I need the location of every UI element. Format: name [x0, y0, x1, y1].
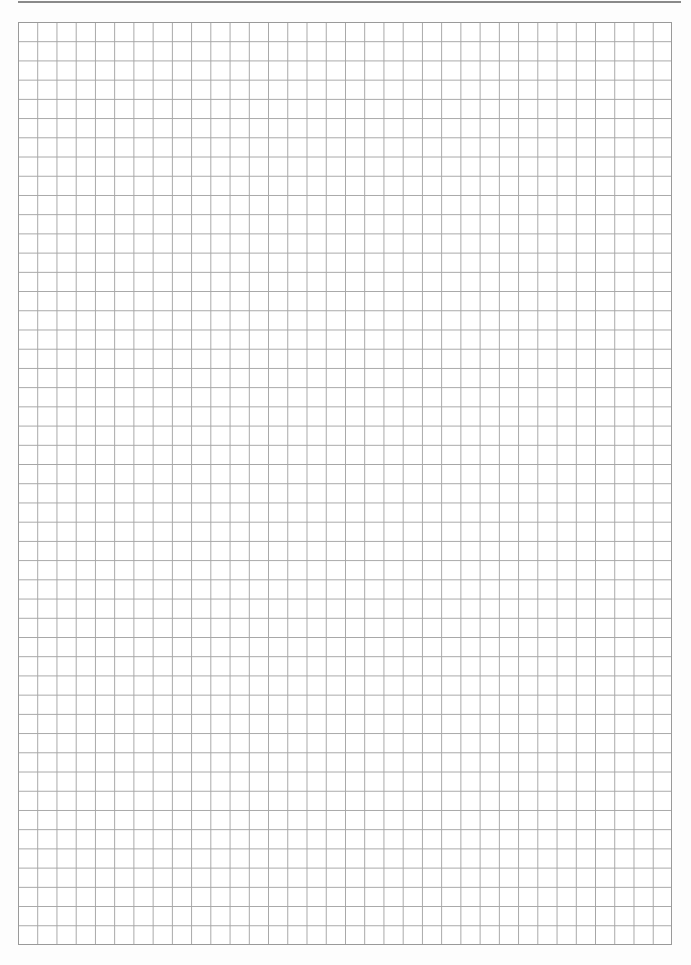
graph-paper-grid [18, 22, 672, 945]
header-rule [18, 1, 681, 3]
